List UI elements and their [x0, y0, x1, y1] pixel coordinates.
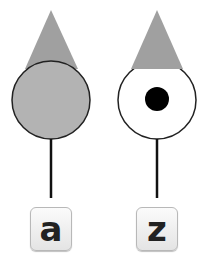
- circle-filled: [12, 61, 90, 139]
- triangle-cone: [131, 10, 183, 69]
- key-z: z: [136, 207, 178, 251]
- figure-left: [12, 10, 90, 198]
- center-dot: [145, 87, 169, 111]
- figure-right: [118, 10, 196, 198]
- triangle-cone: [25, 10, 78, 69]
- key-a: a: [30, 207, 72, 251]
